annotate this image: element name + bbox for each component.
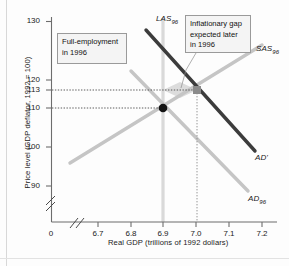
x-tick-label-7-1: 7.1 [216, 229, 242, 238]
equilibrium-point-1996 [159, 104, 168, 113]
ad96-curve-label: AD96 [248, 194, 266, 205]
ad96-label-sub: 96 [259, 199, 266, 205]
x-tick-label-7-0: 7.0 [183, 229, 209, 238]
inflationary-gap-callout: Inflationary gap expected later in 1996 [185, 15, 251, 53]
full-employment-callout: Full-employment in 1996 [57, 33, 127, 64]
sas96-label-text: SAS [256, 44, 272, 53]
y-axis-break-icon [46, 196, 55, 211]
y-axis-title: Price level (GDP deflator, 1992 = 100) [23, 38, 32, 208]
y-tick-label-130: 130 [14, 16, 40, 25]
figure-panel: 130 120 113 110 100 90 0 6.7 6.8 6.9 7.0… [0, 0, 289, 266]
ad-prime-label-text: AD' [255, 153, 268, 162]
las96-curve-label: LAS96 [156, 14, 178, 25]
x-axis-title: Real GDP (trillions of 1992 dollars) [108, 238, 228, 247]
x-tick-label-6-9: 6.9 [150, 229, 176, 238]
y-tick-marks [46, 22, 52, 187]
x-axis-break-icon [70, 218, 84, 228]
x-tick-marks [98, 222, 262, 227]
ad96-label-text: AD [248, 194, 259, 203]
sas96-label-sub: 96 [272, 49, 279, 55]
sas96-curve-label: SAS96 [256, 44, 279, 55]
x-tick-label-7-2: 7.2 [249, 229, 275, 238]
ad-prime-curve-label: AD' [255, 153, 268, 162]
las96-label-sub: 96 [171, 19, 178, 25]
x-tick-label-6-8: 6.8 [118, 229, 144, 238]
expected-equilibrium-point [193, 86, 201, 94]
las96-label-text: LAS [156, 14, 171, 23]
x-tick-label-0: 0 [38, 229, 64, 238]
x-tick-label-6-7: 6.7 [85, 229, 111, 238]
